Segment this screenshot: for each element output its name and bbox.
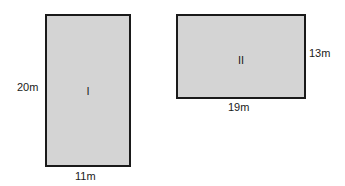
rectangle-ii-width-label: 19m [228,101,249,113]
rectangle-i-label: I [86,85,89,97]
rectangle-ii-height-label: 13m [309,47,330,59]
rectangle-ii-label: II [238,54,244,66]
rectangle-i: I [45,14,131,167]
rectangle-i-width-label: 11m [75,170,96,182]
rectangle-i-height-label: 20m [17,81,38,93]
rectangle-ii: II [176,14,306,99]
